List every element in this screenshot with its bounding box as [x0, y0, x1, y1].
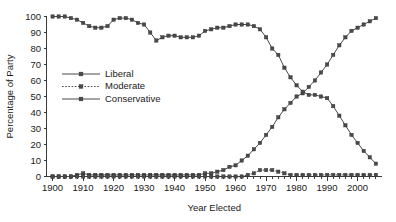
data-point	[222, 26, 225, 29]
data-point	[252, 24, 255, 27]
data-point	[88, 175, 91, 178]
data-point	[264, 36, 267, 39]
data-point	[106, 24, 109, 27]
y-tick-label: 0	[36, 171, 41, 182]
data-point	[252, 172, 255, 175]
data-point	[246, 23, 249, 26]
data-point	[112, 18, 115, 21]
data-point	[173, 175, 176, 178]
data-point	[289, 76, 292, 79]
data-point	[271, 125, 274, 128]
data-point	[155, 39, 158, 42]
data-point	[307, 93, 310, 96]
data-point	[313, 173, 316, 176]
data-point	[356, 141, 359, 144]
x-tick-label: 1990	[317, 182, 338, 193]
data-point	[283, 108, 286, 111]
data-point	[118, 175, 121, 178]
data-point	[344, 36, 347, 39]
data-point	[57, 175, 60, 178]
chart-figure: 0102030405060708090100 19001910192019301…	[0, 0, 396, 222]
data-point	[313, 93, 316, 96]
data-point	[112, 175, 115, 178]
data-point	[179, 36, 182, 39]
data-point	[100, 26, 103, 29]
data-point	[63, 175, 66, 178]
data-point	[246, 154, 249, 157]
data-point	[234, 164, 237, 167]
data-point	[325, 96, 328, 99]
data-point	[362, 23, 365, 26]
data-point	[51, 175, 54, 178]
data-point	[252, 148, 255, 151]
legend-label-conservative: Conservative	[105, 93, 160, 104]
data-point	[277, 116, 280, 119]
data-point	[240, 23, 243, 26]
data-point	[271, 168, 274, 171]
data-point	[368, 20, 371, 23]
data-point	[240, 175, 243, 178]
data-point	[277, 170, 280, 173]
data-point	[313, 79, 316, 82]
y-tick-label: 40	[30, 107, 41, 118]
data-point	[332, 104, 335, 107]
x-tick-label: 1950	[195, 182, 216, 193]
data-point	[216, 175, 219, 178]
data-point	[332, 173, 335, 176]
data-point	[155, 175, 158, 178]
data-point	[338, 114, 341, 117]
data-point	[258, 28, 261, 31]
data-point	[356, 173, 359, 176]
x-tick-label: 1940	[164, 182, 185, 193]
data-point	[142, 23, 145, 26]
data-point	[130, 18, 133, 21]
data-point	[94, 26, 97, 29]
x-tick-label: 1960	[225, 182, 246, 193]
legend-label-moderate: Moderate	[105, 80, 145, 91]
data-point	[203, 29, 206, 32]
data-point	[88, 24, 91, 27]
data-point	[222, 175, 225, 178]
y-tick-label: 70	[30, 59, 41, 70]
data-point	[216, 170, 219, 173]
data-point	[350, 133, 353, 136]
data-point	[374, 162, 377, 165]
y-tick-label: 80	[30, 43, 41, 54]
data-point	[240, 159, 243, 162]
data-point	[75, 18, 78, 21]
data-point	[81, 172, 84, 175]
y-tick-label: 20	[30, 139, 41, 150]
data-point	[51, 15, 54, 18]
data-point	[228, 175, 231, 178]
data-point	[301, 173, 304, 176]
data-point	[210, 172, 213, 175]
data-point	[124, 175, 127, 178]
x-tick-label: 1920	[103, 182, 124, 193]
data-point	[295, 173, 298, 176]
line-chart: 0102030405060708090100 19001910192019301…	[0, 0, 396, 222]
data-point	[100, 175, 103, 178]
x-tick-label: 1930	[134, 182, 155, 193]
x-axis-label: Year Elected	[187, 202, 241, 213]
x-axis-ticks: 1900191019201930194019501960197019801990…	[42, 177, 376, 193]
data-point	[179, 175, 182, 178]
data-point	[246, 173, 249, 176]
data-point	[289, 173, 292, 176]
data-point	[228, 24, 231, 27]
data-point	[319, 71, 322, 74]
data-point	[368, 173, 371, 176]
data-point	[222, 168, 225, 171]
data-point	[57, 15, 60, 18]
x-tick-label: 2000	[347, 182, 368, 193]
data-point	[332, 53, 335, 56]
data-point	[344, 124, 347, 127]
y-axis-ticks: 0102030405060708090100	[25, 11, 46, 182]
y-tick-label: 90	[30, 27, 41, 38]
data-point	[106, 175, 109, 178]
legend-marker	[79, 85, 83, 89]
data-point	[69, 175, 72, 178]
y-tick-label: 30	[30, 123, 41, 134]
data-point	[289, 101, 292, 104]
data-point	[338, 173, 341, 176]
x-tick-label: 1980	[286, 182, 307, 193]
